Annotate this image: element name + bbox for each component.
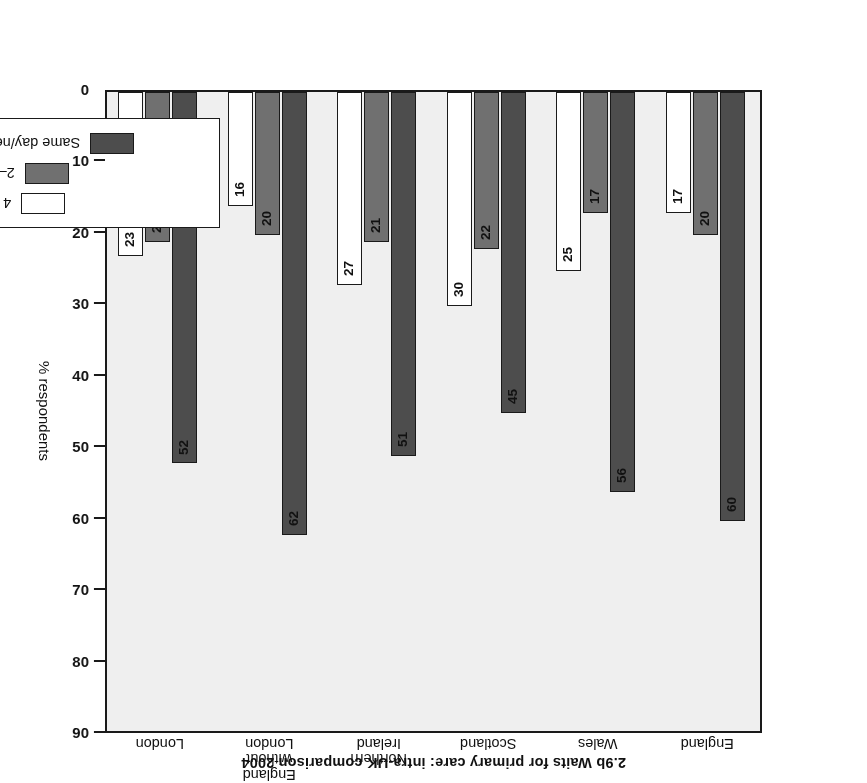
bar-value-label: 20: [697, 211, 712, 226]
bar-value-label: 17: [587, 189, 602, 204]
bar-group: 561725: [541, 92, 651, 731]
bar-value-label: 56: [614, 468, 629, 483]
bar: [610, 92, 635, 492]
bar-group: 452230: [432, 92, 542, 731]
bar: [447, 92, 472, 306]
bar-value-label: 52: [176, 439, 191, 454]
category-label: Wales: [543, 735, 653, 751]
category-label: England without London: [215, 735, 325, 782]
bar-value-label: 60: [724, 497, 739, 512]
y-axis-tick: [94, 588, 105, 590]
y-axis-tick-label: 50: [72, 439, 89, 456]
y-axis-tick: [94, 660, 105, 662]
y-axis-tick-label: 20: [72, 224, 89, 241]
y-axis-tick-label: 90: [72, 725, 89, 742]
bar-value-label: 27: [341, 261, 356, 276]
bar-value-label: 17: [670, 189, 685, 204]
figure-root: 2.9b Waits for primary care: intra-UK co…: [0, 0, 867, 783]
y-axis-title: % respondents: [37, 361, 54, 461]
y-axis-tick-label: 60: [72, 510, 89, 527]
y-axis-tick: [94, 374, 105, 376]
bar-value-label: 16: [232, 182, 247, 197]
category-label: Scotland: [434, 735, 544, 751]
bar: [501, 92, 526, 414]
bar-value-label: 25: [560, 247, 575, 262]
y-axis-tick-label: 40: [72, 367, 89, 384]
bar: [337, 92, 362, 285]
bar-group: 602017: [651, 92, 761, 731]
bar: [391, 92, 416, 456]
y-axis-tick-label: 80: [72, 653, 89, 670]
y-axis: % respondents 0102030405060708090: [0, 90, 105, 733]
bar-value-label: 30: [451, 282, 466, 297]
bar-group: 512127: [322, 92, 432, 731]
category-label-row: EnglandWalesScotlandNorthern IrelandEngl…: [105, 733, 762, 783]
bar-value-label: 23: [122, 232, 137, 247]
y-axis-tick-label: 10: [72, 153, 89, 170]
y-axis-tick: [94, 231, 105, 233]
category-label: Northern Ireland: [324, 735, 434, 766]
bar-value-label: 62: [286, 511, 301, 526]
y-axis-tick: [94, 302, 105, 304]
category-label: London: [105, 735, 215, 751]
y-axis-tick: [94, 159, 105, 161]
bar: [282, 92, 307, 535]
y-axis-tick-label: 70: [72, 582, 89, 599]
bar: [556, 92, 581, 271]
bar-group: 622016: [213, 92, 323, 731]
bar-value-label: 20: [259, 211, 274, 226]
y-axis-tick: [94, 731, 105, 733]
category-label: England: [653, 735, 763, 751]
bar-value-label: 21: [368, 218, 383, 233]
y-axis-tick-label: 30: [72, 296, 89, 313]
bar: [720, 92, 745, 521]
y-axis-tick-label: 0: [81, 82, 89, 99]
bar-value-label: 45: [505, 389, 520, 404]
bar-value-label: 51: [395, 432, 410, 447]
plot-area: 602017561725452230512127622016522123 Sam…: [105, 90, 762, 733]
y-axis-tick: [94, 517, 105, 519]
bar-value-label: 22: [478, 225, 493, 240]
y-axis-tick: [94, 445, 105, 447]
